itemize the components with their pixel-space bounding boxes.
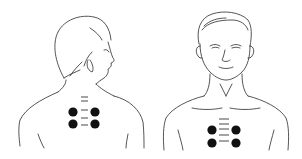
back-view-figure [19, 16, 144, 148]
back-spine-marks [81, 97, 88, 125]
placement-point-dot [90, 107, 99, 116]
placement-point-dot [90, 119, 99, 128]
front-sternum-marks [219, 119, 229, 141]
placement-point-dot [207, 138, 216, 147]
placement-diagram [0, 0, 302, 159]
illustration-canvas [0, 0, 302, 159]
placement-point-dot [68, 119, 77, 128]
placement-point-dot [231, 138, 240, 147]
placement-point-dot [68, 107, 77, 116]
placement-point-dot [207, 125, 216, 134]
placement-point-dot [231, 125, 240, 134]
